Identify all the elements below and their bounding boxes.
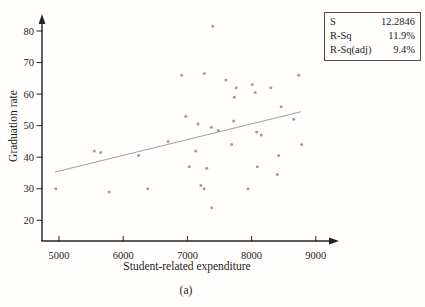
data-point: [203, 72, 206, 75]
data-point: [99, 151, 102, 154]
regression-line: [55, 112, 301, 172]
x-axis-title: Student-related expenditure: [123, 260, 250, 272]
data-point: [205, 167, 208, 170]
y-axis-title: Graduation rate: [7, 90, 19, 162]
data-point: [230, 143, 233, 146]
data-point: [211, 25, 214, 28]
data-point: [108, 190, 111, 193]
stat-label: R-Sq: [330, 29, 352, 43]
data-point: [54, 187, 57, 190]
stat-label: S: [330, 15, 336, 29]
y-tick-label: 40: [24, 152, 35, 163]
data-point: [210, 206, 213, 209]
stats-row-rsq: R-Sq 11.9%: [330, 29, 415, 43]
data-point: [276, 173, 279, 176]
y-tick-label: 50: [24, 120, 35, 131]
data-point: [277, 154, 280, 157]
data-point: [180, 74, 183, 77]
data-point: [188, 165, 191, 168]
data-point: [167, 140, 170, 143]
data-point: [184, 115, 187, 118]
x-tick-label: 9000: [305, 250, 326, 261]
x-tick-label: 5000: [49, 250, 70, 261]
data-point: [146, 187, 149, 190]
data-point: [137, 154, 140, 157]
data-point: [203, 187, 206, 190]
stats-row-s: S 12.2846: [330, 15, 415, 29]
data-point: [251, 83, 254, 86]
data-point: [224, 78, 227, 81]
data-point: [280, 105, 283, 108]
y-axis-arrow: [39, 14, 46, 24]
data-point: [300, 143, 303, 146]
x-axis-arrow: [329, 238, 339, 245]
stat-value: 11.9%: [388, 29, 415, 43]
data-point: [247, 187, 250, 190]
data-point: [210, 126, 213, 129]
y-tick-label: 70: [24, 57, 35, 68]
data-point: [217, 129, 220, 132]
data-point: [292, 118, 295, 121]
data-point: [232, 119, 235, 122]
data-point: [297, 74, 300, 77]
stats-legend-box: S 12.2846 R-Sq 11.9% R-Sq(adj) 9.4%: [324, 12, 421, 61]
data-point: [233, 96, 236, 99]
stat-value: 9.4%: [393, 43, 415, 57]
scatterplot-figure: 5000600070008000900020304050607080 Gradu…: [0, 0, 425, 307]
data-point: [256, 165, 259, 168]
data-point: [194, 149, 197, 152]
stat-value: 12.2846: [381, 15, 415, 29]
y-tick-label: 20: [24, 215, 35, 226]
data-point: [235, 86, 238, 89]
y-tick-label: 30: [24, 183, 35, 194]
y-tick-label: 60: [24, 89, 35, 100]
y-tick-label: 80: [24, 26, 35, 37]
data-point: [93, 149, 96, 152]
data-point: [199, 184, 202, 187]
data-point: [269, 86, 272, 89]
figure-caption: (a): [180, 284, 193, 296]
data-point: [254, 91, 257, 94]
stat-label: R-Sq(adj): [330, 43, 371, 57]
data-point: [197, 123, 200, 126]
data-point: [260, 134, 263, 137]
data-point: [255, 131, 258, 134]
stats-row-rsq-adj: R-Sq(adj) 9.4%: [330, 43, 415, 57]
